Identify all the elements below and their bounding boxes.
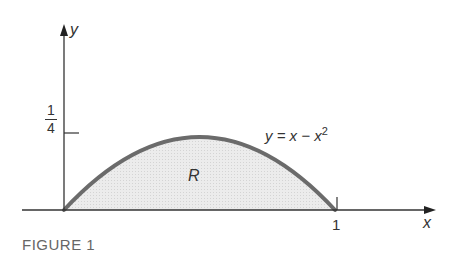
curve-label-eq: = x − x (273, 127, 322, 144)
fraction-denominator: 4 (44, 121, 58, 136)
x-tick-label-1: 1 (332, 216, 340, 233)
region-label: R (188, 167, 200, 185)
fraction-numerator: 1 (44, 103, 58, 118)
curve-label-y: y (265, 127, 273, 144)
chart-canvas (0, 0, 457, 266)
x-axis-label: x (423, 214, 431, 232)
y-axis-label: y (70, 21, 78, 39)
y-tick-label-quarter: 1 4 (44, 103, 58, 136)
curve-equation-label: y = x − x2 (265, 125, 328, 144)
curve-label-exponent: 2 (322, 125, 328, 137)
x-axis-arrow-icon (424, 206, 436, 214)
y-axis-arrow-icon (60, 24, 68, 36)
figure-caption: FIGURE 1 (22, 236, 95, 253)
